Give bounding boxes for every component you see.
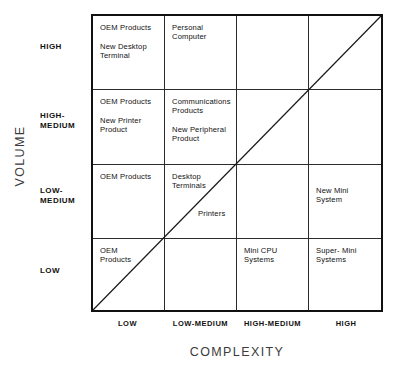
cell-high-medium-high [309,90,381,164]
cell-high-low: OEM Products New Desktop Terminal [93,16,164,89]
cell-high-high-medium [237,16,308,89]
cell-text: Desktop Terminals [172,172,206,191]
cell-low-high-medium: Mini CPU Systems [237,239,308,310]
cell-low-low: OEM Products [93,239,164,310]
cell-low-medium-high-medium [237,165,308,238]
y-tick-high-medium: HIGH- MEDIUM [40,111,86,131]
cell-low-low-medium [165,239,236,310]
x-axis-title: COMPLEXITY [91,345,383,359]
cell-high-low-medium: Personal Computer [165,16,236,89]
y-tick-low-medium: LOW- MEDIUM [40,186,86,206]
y-axis-title-label: VOLUME [13,125,27,186]
cell-text-printers: Printers [198,209,225,218]
cell-text: Personal Computer [172,23,207,42]
cell-text: Communications Products [172,97,231,116]
cell-high-medium-high-medium [237,90,308,164]
cell-text: New Printer Product [100,116,141,135]
cell-text: OEM Products [100,23,151,32]
y-tick-low: LOW [40,266,86,276]
cell-high-medium-low-medium: Communications Products New Peripheral P… [165,90,236,164]
y-axis-title: VOLUME [0,0,40,311]
cell-low-medium-low-medium: Desktop Terminals Printers [165,165,236,238]
cell-text: OEM Products [100,172,151,181]
cell-low-medium-low: OEM Products [93,165,164,238]
y-tick-high: HIGH [40,42,86,52]
cell-text: Super- Mini Systems [316,246,356,265]
cell-text: New Peripheral Product [172,125,226,144]
x-tick-high: HIGH [309,319,383,328]
x-tick-low-medium: LOW-MEDIUM [164,319,237,328]
cell-high-medium-low: OEM Products New Printer Product [93,90,164,164]
cell-high-high [309,16,381,89]
cell-low-medium-high: New Mini System [309,165,381,238]
matrix-grid: OEM Products New Desktop Terminal Person… [91,14,383,312]
cell-text: OEM Products [100,246,131,265]
x-tick-low: LOW [91,319,164,328]
x-tick-high-medium: HIGH-MEDIUM [236,319,309,328]
cell-text: Mini CPU Systems [244,246,277,265]
cell-text: OEM Products [100,97,151,106]
cell-text: New Desktop Terminal [100,42,147,61]
cell-text: New Mini System [316,186,348,205]
cell-low-high: Super- Mini Systems [309,239,381,310]
